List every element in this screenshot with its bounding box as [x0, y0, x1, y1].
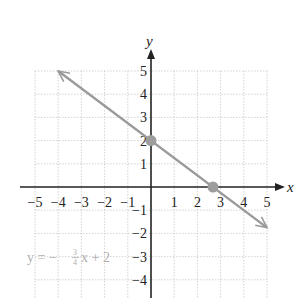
x-axis-arrow-icon [275, 183, 285, 191]
y-axis-arrow-icon [147, 49, 155, 59]
equation-denominator: 4 [73, 258, 77, 267]
x-tick-label: 5 [264, 195, 271, 210]
line-graph: x y −5−4−3−2−11234554321−1−2−3−4 y = − 3… [0, 0, 305, 298]
equation-numerator: 3 [73, 248, 77, 257]
y-tick-label: 4 [140, 87, 147, 102]
y-tick-label: 1 [140, 157, 147, 172]
x-tick-label: −2 [97, 195, 112, 210]
svg-text:y = −: y = − [27, 250, 57, 265]
x-tick-label: 1 [171, 195, 178, 210]
x-tick-label: −3 [74, 195, 89, 210]
tick-labels: −5−4−3−2−11234554321−1−2−3−4 [28, 64, 271, 288]
x-tick-label: −4 [51, 195, 66, 210]
y-tick-label: −1 [132, 203, 147, 218]
function-line [58, 71, 267, 228]
series-line [58, 71, 267, 228]
y-tick-label: 5 [140, 64, 147, 79]
x-tick-label: 2 [194, 195, 201, 210]
x-tick-label: −5 [28, 195, 43, 210]
equation-prefix: y = − [27, 250, 57, 265]
y-tick-label: −2 [132, 226, 147, 241]
x-tick-label: 3 [217, 195, 224, 210]
y-tick-label: 3 [140, 110, 147, 125]
y-tick-label: −4 [132, 273, 147, 288]
x-axis-label: x [286, 179, 294, 195]
y-intercept-point [146, 135, 157, 146]
y-axis-label: y [144, 33, 153, 49]
x-intercept-point [207, 182, 218, 193]
equation-label: y = − 3 4 x + 2 [27, 248, 110, 267]
y-tick-label: −3 [132, 250, 147, 265]
equation-suffix: x + 2 [81, 250, 110, 265]
